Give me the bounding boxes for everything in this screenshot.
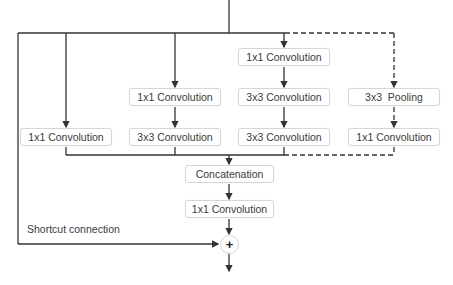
- branch3-conv3x3-a: 3x3 Convolution: [238, 88, 330, 106]
- post-conv1x1: 1x1 Convolution: [185, 200, 274, 218]
- branch4-pool3x3: 3x3 Pooling: [348, 88, 440, 106]
- branch2-conv1x1: 1x1 Convolution: [129, 88, 221, 106]
- diagram-canvas: 1x1 Convolution 1x1 Convolution 3x3 Conv…: [0, 0, 453, 285]
- branch3-conv3x3-b: 3x3 Convolution: [238, 128, 330, 146]
- branch3-conv1x1: 1x1 Convolution: [238, 48, 330, 66]
- branch4-conv1x1: 1x1 Convolution: [348, 128, 440, 146]
- shortcut-label: Shortcut connection: [27, 223, 120, 235]
- add-icon: +: [220, 235, 239, 254]
- concatenation-node: Concatenation: [185, 165, 274, 183]
- branch2-conv3x3: 3x3 Convolution: [129, 128, 221, 146]
- branch1-conv1x1: 1x1 Convolution: [20, 128, 112, 146]
